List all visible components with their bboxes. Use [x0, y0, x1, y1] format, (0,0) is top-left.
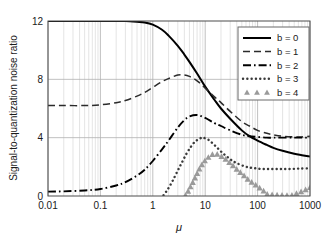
x-tick-label: 1000	[299, 200, 322, 211]
x-tick-label: 0.1	[93, 200, 107, 211]
x-tick-label: 1	[150, 200, 156, 211]
chart-legend[interactable]: b = 0b = 1b = 2b = 3b = 4	[238, 27, 309, 100]
chart-figure: 0.010.11101001000 04812 μ Signal-to-quan…	[0, 0, 328, 242]
legend-label: b = 4	[277, 87, 298, 98]
y-axis-title: Signal-to-quantization noise ratio	[8, 35, 19, 181]
x-tick-label: 100	[249, 200, 266, 211]
y-tick-label: 4	[37, 132, 43, 143]
y-tick-label: 0	[37, 191, 43, 202]
signal-to-quantization-noise-ratio-chart: 0.010.11101001000 04812 μ Signal-to-quan…	[0, 0, 328, 242]
x-tick-label: 0.01	[38, 200, 58, 211]
y-tick-label: 12	[32, 16, 44, 27]
x-tick-label: 10	[200, 200, 212, 211]
legend-label: b = 3	[277, 73, 298, 84]
y-tick-label: 8	[37, 74, 43, 85]
x-axis-title: μ	[175, 221, 182, 233]
legend-label: b = 0	[277, 32, 298, 43]
legend-label: b = 1	[277, 46, 298, 57]
legend-label: b = 2	[277, 60, 298, 71]
